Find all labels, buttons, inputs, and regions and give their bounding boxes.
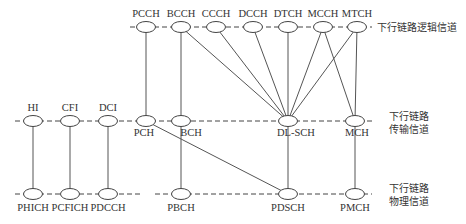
logical-layer-label: 下行链路逻辑信道 [377, 21, 457, 33]
node-PDCCH [99, 189, 118, 200]
transport-layer-label-line2: 传输信道 [389, 123, 429, 135]
label-PBCH: PBCH [167, 202, 195, 213]
label-DCCH: DCCH [238, 8, 268, 19]
node-DCCH [244, 22, 263, 33]
node-PMCH [346, 189, 365, 200]
transport-layer-label-line1: 下行链路 [389, 110, 429, 122]
edge-MCCH-MCH [323, 27, 355, 121]
label-MCCH: MCCH [308, 8, 339, 19]
label-MCH: MCH [345, 127, 369, 138]
physical-layer-label-line2: 物理信道 [389, 195, 429, 207]
label-CCCH: CCCH [202, 8, 231, 19]
label-PHICH: PHICH [17, 202, 49, 213]
node-PBCH [172, 189, 191, 200]
label-CFI: CFI [62, 102, 79, 113]
node-CCCH [207, 22, 226, 33]
label-PDSCH: PDSCH [271, 202, 305, 213]
node-BCCH [172, 22, 191, 33]
node-BCH [172, 116, 191, 127]
edge-PCH-PDSCH [146, 121, 288, 194]
edge-CCCH-DL-SCH [216, 27, 288, 121]
label-MTCH: MTCH [342, 8, 373, 19]
node-DCI [99, 116, 118, 127]
edge-DCCH-DL-SCH [253, 27, 288, 121]
node-PHICH [24, 189, 43, 200]
label-DCI: DCI [99, 102, 118, 113]
node-HI [24, 116, 43, 127]
label-PCH: PCH [134, 127, 155, 138]
label-DTCH: DTCH [274, 8, 303, 19]
label-PMCH: PMCH [340, 202, 370, 213]
label-PCFICH: PCFICH [52, 202, 89, 213]
node-CFI [61, 116, 80, 127]
node-MCH [346, 116, 365, 127]
label-BCH: BCH [180, 127, 202, 138]
node-PCCH [137, 22, 156, 33]
node-PDSCH [279, 189, 298, 200]
label-BCCH: BCCH [167, 8, 196, 19]
node-DL-SCH [279, 116, 298, 127]
node-PCH [137, 116, 156, 127]
edge-MCCH-DL-SCH [288, 27, 323, 121]
label-PCCH: PCCH [132, 8, 160, 19]
edge-MTCH-MCH [355, 27, 357, 121]
edge-BCCH-DL-SCH [181, 27, 288, 121]
label-DL-SCH: DL-SCH [277, 127, 315, 138]
label-HI: HI [27, 102, 39, 113]
label-PDCCH: PDCCH [90, 202, 125, 213]
channel-mapping-diagram: PCCHBCCHCCCHDCCHDTCHMCCHMTCHHICFIDCIPCHB… [0, 0, 466, 224]
node-PCFICH [61, 189, 80, 200]
node-DTCH [279, 22, 298, 33]
node-MTCH [348, 22, 367, 33]
mapping-edges [33, 27, 357, 194]
physical-layer-label-line1: 下行链路 [389, 182, 429, 194]
node-MCCH [314, 22, 333, 33]
edge-MTCH-DL-SCH [288, 27, 357, 121]
